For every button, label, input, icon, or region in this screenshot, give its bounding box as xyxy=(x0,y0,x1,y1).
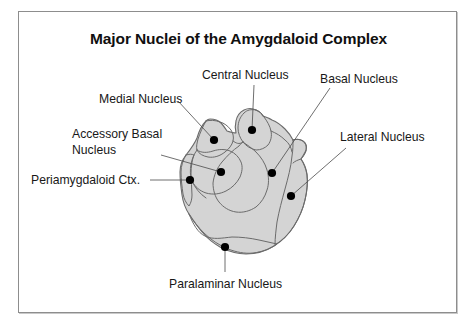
marker-dot-periamygdaloid-ctx xyxy=(186,176,194,184)
label-medial-nucleus: Medial Nucleus xyxy=(99,92,182,106)
marker-dot-lateral-nucleus xyxy=(287,192,295,200)
amygdala-diagram: Central Nucleus Basal Nucleus Medial Nuc… xyxy=(0,0,473,328)
label-central-nucleus: Central Nucleus xyxy=(202,68,289,82)
marker-dot-paralaminar-nucleus xyxy=(221,243,229,251)
label-paralaminar-nucleus: Paralaminar Nucleus xyxy=(169,277,282,291)
marker-dot-accessory-basal-nucleus xyxy=(217,168,225,176)
label-periamygdaloid-ctx: Periamygdaloid Ctx. xyxy=(31,173,140,187)
marker-dot-central-nucleus xyxy=(248,126,256,134)
marker-dot-medial-nucleus xyxy=(210,136,218,144)
label-basal-nucleus: Basal Nucleus xyxy=(320,72,398,86)
amygdaloid-complex-shape xyxy=(180,109,307,255)
marker-dot-basal-nucleus xyxy=(268,169,276,177)
label-lateral-nucleus: Lateral Nucleus xyxy=(340,130,425,144)
label-accessory-basal-nucleus-line2: Nucleus xyxy=(72,143,116,157)
label-accessory-basal-nucleus-line1: Accessory Basal xyxy=(72,127,162,141)
